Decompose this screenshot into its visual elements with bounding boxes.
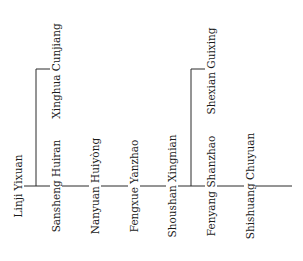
lineage-diagram: Linji Yixuan Xinghua Cunjiang Sansheng H… [0,0,303,261]
node-fengxue-yanzhao: Fengxue Yanzhao [128,140,140,233]
node-linji-yixuan: Linji Yixuan [12,154,24,217]
node-xinghua-cunjiang: Xinghua Cunjiang [50,23,62,119]
nodes: Linji Yixuan Xinghua Cunjiang Sansheng H… [12,23,257,239]
edge-linji-xinghua [36,69,50,186]
edge-shoushan-shexian [191,69,205,186]
node-shishuang-chuyuan: Shishuang Chuyuan [244,132,256,239]
node-shexian-guixing: Shexian Guixing [205,27,217,114]
node-shoushan-xingnian: Shoushan Xingnian [166,134,178,237]
node-nanyuan-huiyong: Nanyuan Huiyòng [89,138,101,235]
node-sansheng-huiran: Sansheng Huiran [50,139,62,232]
node-fenyang-shanzhao: Fenyang Shanzhao [205,136,217,237]
